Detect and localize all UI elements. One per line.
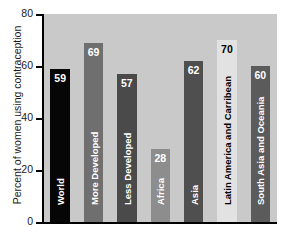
bar-value-label: 62	[186, 63, 202, 78]
bar-less-developed[interactable]: Less Developed	[117, 74, 137, 222]
bar-category-label: Asia	[188, 185, 199, 205]
y-tick-mark-40	[36, 118, 42, 120]
bar-value-label: 57	[119, 76, 135, 91]
bar-category-label: Less Developed	[121, 133, 132, 205]
bar-chart: Percent of women using contraception 80 …	[0, 0, 282, 244]
bar-value-label: 60	[252, 68, 268, 83]
y-tick-mark-0	[36, 222, 42, 224]
bar-south-asia-and-oceania[interactable]: South Asia and Oceania	[251, 66, 271, 222]
y-tick-mark-60	[36, 66, 42, 68]
bar-category-label: More Developed	[88, 132, 99, 205]
y-tick-label-60: 60	[3, 60, 33, 71]
bar-category-label: Latin America and Carribean	[221, 76, 232, 205]
y-tick-mark-20	[36, 170, 42, 172]
y-tick-mark-80	[36, 14, 42, 16]
bar-value-label: 70	[219, 42, 235, 57]
y-tick-label-20: 20	[3, 164, 33, 175]
plot-area: World59More Developed69Less Developed57A…	[44, 14, 278, 222]
bar-latin-america-and-carribean[interactable]: Latin America and Carribean	[217, 40, 237, 222]
bar-world[interactable]: World	[50, 69, 70, 222]
bar-category-label: South Asia and Oceania	[255, 97, 266, 205]
bar-more-developed[interactable]: More Developed	[84, 43, 104, 222]
y-tick-label-0: 0	[3, 216, 33, 227]
y-tick-label-40: 40	[3, 112, 33, 123]
x-axis-line	[42, 222, 277, 224]
bar-value-label: 59	[52, 71, 68, 86]
bar-value-label: 28	[152, 151, 168, 166]
bar-asia[interactable]: Asia	[184, 61, 204, 222]
bar-value-label: 69	[86, 45, 102, 60]
y-tick-label-80: 80	[3, 8, 33, 19]
bar-category-label: Africa	[155, 178, 166, 205]
bar-category-label: World	[55, 178, 66, 205]
